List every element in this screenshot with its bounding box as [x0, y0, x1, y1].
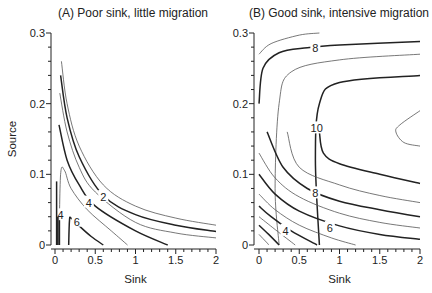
contour-line [259, 225, 279, 245]
x-axis-label: Sink [124, 273, 147, 285]
contour-line [319, 132, 420, 184]
x-tick-label: 0.5 [292, 254, 307, 266]
contour-figure: (A) Poor sink, little migration00.10.20.… [0, 0, 432, 293]
contour-label: 6 [74, 216, 80, 228]
x-tick-label: 2 [213, 254, 219, 266]
x-tick-label: 2 [417, 254, 423, 266]
contour-line [259, 33, 319, 54]
contour-label: 2 [100, 191, 106, 203]
contour-line [259, 234, 269, 245]
y-tick-label: 0 [39, 239, 45, 251]
contour-label: 4 [86, 197, 92, 209]
x-tick-label: 0 [52, 254, 58, 266]
contour-line [275, 54, 420, 245]
contour-line [61, 75, 216, 231]
x-axis-label: Sink [328, 273, 351, 285]
y-tick-label: 0.3 [30, 27, 45, 39]
x-tick-label: 1.5 [168, 254, 183, 266]
contour-label: 8 [312, 42, 318, 54]
y-tick-label: 0.2 [30, 98, 45, 110]
contour-label: 10 [311, 122, 323, 134]
x-tick-label: 0 [256, 254, 262, 266]
x-tick-label: 1 [336, 254, 342, 266]
panel-b: (B) Good sink, intensive migration00.10.… [233, 6, 429, 285]
contour-lines: 2446 [56, 61, 216, 245]
y-axis-label: Source [6, 121, 18, 157]
x-tick-label: 1 [132, 254, 138, 266]
contour-label: 6 [327, 222, 333, 234]
panel-title: (B) Good sink, intensive migration [249, 6, 429, 20]
y-tick-label: 0.1 [30, 168, 45, 180]
x-tick-label: 1.5 [372, 254, 387, 266]
contour-label: 4 [283, 225, 289, 237]
y-tick-label: 0 [242, 239, 248, 251]
panel-a: (A) Poor sink, little migration00.10.20.… [6, 6, 219, 285]
contour-line [259, 42, 420, 104]
y-tick-label: 0.2 [233, 98, 248, 110]
contour-lines: 810864 [259, 33, 420, 245]
x-tick-label: 0.5 [88, 254, 103, 266]
contour-line [396, 111, 420, 146]
panel-title: (A) Poor sink, little migration [58, 6, 208, 20]
y-tick-label: 0.3 [233, 27, 248, 39]
contour-label: 8 [312, 187, 318, 199]
y-tick-label: 0.1 [233, 168, 248, 180]
